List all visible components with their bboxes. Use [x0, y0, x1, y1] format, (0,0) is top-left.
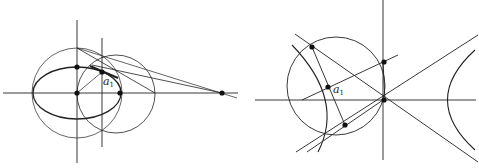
point [74, 64, 79, 69]
point [381, 59, 386, 64]
diagram-canvas: a1 a1 [0, 0, 479, 168]
second-circle [77, 55, 155, 133]
point [381, 97, 386, 102]
point [219, 90, 224, 95]
point [99, 69, 104, 74]
radius-line [77, 72, 102, 93]
hyperbola-left-branch [292, 45, 327, 152]
label-a1-right: a1 [333, 83, 344, 97]
point [74, 90, 79, 95]
right-figure [255, 0, 478, 162]
point [342, 122, 347, 127]
point [117, 90, 122, 95]
point [309, 44, 314, 49]
point [325, 84, 330, 89]
